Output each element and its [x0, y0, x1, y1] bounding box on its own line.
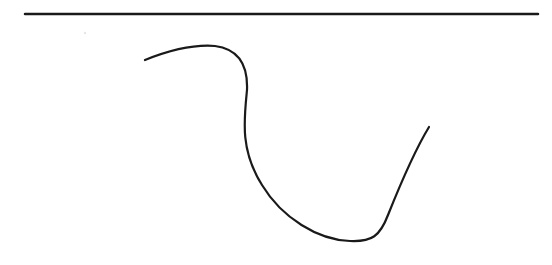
faint-pencil-mark: [84, 32, 86, 34]
freehand-curve: [145, 46, 429, 241]
sketch-diagram: [0, 0, 552, 265]
sketch-canvas: [0, 0, 552, 265]
